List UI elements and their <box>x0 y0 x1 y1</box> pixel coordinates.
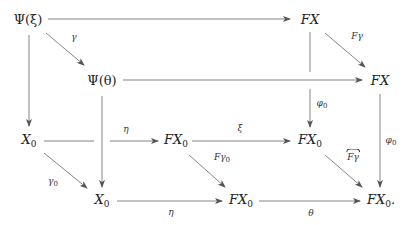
label-f-gamma: Fγ <box>351 32 363 41</box>
node-psi-theta-text: Ψ(θ) <box>87 73 116 88</box>
label-f-gamma-hat-text: Fγ <box>347 153 359 162</box>
label-f-gamma-hat: Fγ <box>347 153 359 162</box>
node-psi-theta: Ψ(θ) <box>87 74 116 87</box>
node-fx-top-text: FX <box>301 12 319 27</box>
node-x0-left: X0 <box>22 133 37 149</box>
label-gamma: γ <box>71 33 76 42</box>
node-fx-right: FX <box>371 74 389 87</box>
node-x0-bottom: X0 <box>95 193 110 209</box>
node-x0-left-text: X0 <box>22 132 37 147</box>
label-phi0-mid: φ0 <box>317 99 328 110</box>
node-psi-xi: Ψ(ξ) <box>14 13 43 26</box>
node-fx0-bottom: FX0 <box>229 193 253 209</box>
label-phi0-right: φ0 <box>386 136 397 147</box>
node-fx0-midleft: FX0 <box>164 133 188 149</box>
label-eta-mid: η <box>123 125 128 134</box>
node-x0-bottom-text: X0 <box>95 192 110 207</box>
label-gamma0: γ0 <box>48 177 58 188</box>
edge-psixi-psitheta <box>46 33 84 65</box>
label-theta: θ <box>308 209 313 218</box>
label-eta-bottom: η <box>168 208 173 217</box>
node-fx0-midright: FX0 <box>298 133 322 149</box>
label-xi: ξ <box>238 124 243 133</box>
node-psi-xi-text: Ψ(ξ) <box>14 12 43 27</box>
node-fx-top: FX <box>301 13 319 26</box>
node-fx0-bottom-text: FX0 <box>229 192 253 207</box>
node-fx0-midright-text: FX0 <box>298 132 322 147</box>
node-fx0-bottomright: FX0. <box>367 193 395 209</box>
node-fx0-bottomright-text: FX0. <box>367 192 395 207</box>
node-fx0-midleft-text: FX0 <box>164 132 188 147</box>
label-f-gamma0: Fγ0 <box>214 153 230 164</box>
node-fx-right-text: FX <box>371 73 389 88</box>
